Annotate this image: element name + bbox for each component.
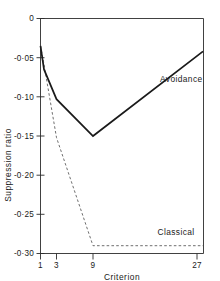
x-axis-title: Criterion bbox=[104, 272, 140, 281]
y-tick-label-4: -0·20 bbox=[14, 171, 34, 180]
x-tick-label-3: 3 bbox=[54, 261, 59, 270]
x-tick-label-1: 1 bbox=[38, 261, 43, 270]
chart-figure: 0 -0·05 -0·10 -0·15 -0·20 -0·25 -0·30 1 … bbox=[0, 0, 220, 281]
y-tick-labels: 0 -0·05 -0·10 -0·15 -0·20 -0·25 -0·30 bbox=[14, 14, 34, 258]
x-tick-marks bbox=[41, 254, 198, 260]
series-line-avoidance bbox=[41, 46, 204, 136]
y-tick-label-2: -0·10 bbox=[14, 93, 34, 102]
y-tick-label-5: -0·25 bbox=[14, 210, 34, 219]
x-tick-label-9: 9 bbox=[91, 261, 96, 270]
y-tick-label-1: -0·05 bbox=[14, 54, 34, 63]
y-axis-title: Suppression ratio bbox=[3, 128, 13, 202]
y-tick-label-6: -0·30 bbox=[14, 249, 34, 258]
plot-axes bbox=[41, 19, 204, 254]
y-tick-label-3: -0·15 bbox=[14, 132, 34, 141]
series-label-avoidance: Avoidance bbox=[160, 74, 203, 84]
x-tick-label-27: 27 bbox=[192, 261, 202, 270]
x-tick-labels: 1 3 9 27 bbox=[38, 261, 202, 270]
suppression-ratio-line-chart: 0 -0·05 -0·10 -0·15 -0·20 -0·25 -0·30 1 … bbox=[0, 0, 220, 281]
y-tick-label-0: 0 bbox=[29, 14, 34, 23]
series-label-classical: Classical bbox=[157, 227, 194, 237]
